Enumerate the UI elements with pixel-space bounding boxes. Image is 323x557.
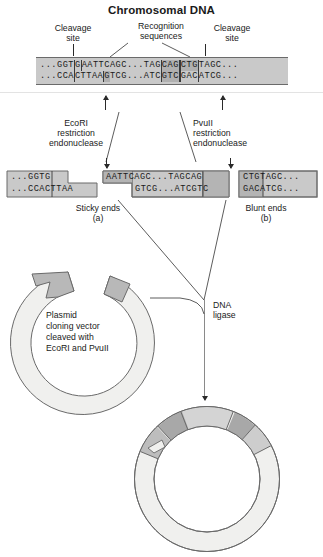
cut-arrow-ecori	[105, 96, 106, 110]
plasmid-caption-line1: Plasmid	[46, 310, 154, 321]
bottom-flank-right: ATCG...	[199, 71, 239, 82]
dna-ligase-line1: DNA	[213, 300, 273, 310]
top-ecori-core: AATTC	[82, 60, 110, 71]
fragment-middle: AATTCAGC...TAGCAG GTCG...ATCGTC	[102, 170, 230, 198]
label-pvuii-enzyme: PvuII restriction endonuclease	[193, 118, 283, 148]
top-spacer: AGC...TAG	[110, 60, 161, 71]
cut-arrow-pvuii	[222, 96, 223, 110]
fragment-middle-bottom-pvuii: GTC	[192, 184, 209, 195]
blunt-ends-tag: (b)	[228, 213, 304, 223]
fragment-right-top-flank: TAGC...	[260, 172, 300, 183]
fragment-right-bottom-flank: ATCG...	[260, 184, 300, 195]
fragment-left: ...GGTG ...CCACTTAA	[6, 170, 98, 198]
label-dna-ligase: DNA ligase	[213, 300, 273, 320]
fragment-middle-top-spacer: AGC...TAG	[134, 172, 185, 183]
pvuii-name: PvuII	[193, 118, 283, 128]
ecori-name: EcoRI	[38, 118, 114, 128]
fragment-middle-top-pvuii: CAG	[185, 172, 202, 183]
pvuii-line2: restriction	[193, 128, 283, 138]
fragment-right-bottom-pvuii: GAC	[243, 184, 260, 195]
top-ecori-pre: G	[74, 60, 82, 71]
top-pvuii-first: CAG	[161, 60, 180, 71]
chromosomal-dna-duplex: ...GGT G AATTC AGC...TAG CAG CTG TAGC...…	[36, 57, 288, 85]
cleavage-site-right-line1: Cleavage	[201, 23, 263, 33]
plasmid-caption-line3: cleaved with	[46, 332, 154, 343]
bottom-spacer: TCG...ATC	[110, 71, 161, 82]
fragment-middle-top-overhang: AATTC	[106, 172, 134, 183]
blunt-ends-text: Blunt ends	[228, 203, 304, 213]
recognition-line2: sequences	[118, 31, 204, 41]
cleavage-site-left-line1: Cleavage	[42, 23, 104, 33]
page-rule	[0, 92, 323, 93]
ligation-stem-arrow	[204, 300, 205, 400]
diagram-canvas: Chromosomal DNA Cleavage site Recognitio…	[0, 0, 323, 557]
pvuii-line3: endonuclease	[193, 138, 283, 148]
cleavage-site-left-line2: site	[42, 33, 104, 43]
fragment-right-top: CTGTAGC...	[243, 172, 300, 183]
fragment-left-bottom: ...CCACTTAA	[11, 184, 73, 195]
cleavage-tick-right	[205, 44, 206, 56]
pvuii-leader-line	[178, 112, 198, 164]
fragment-right-bottom: GACATCG...	[243, 184, 300, 195]
bottom-ecori-core: CTTAA	[74, 71, 104, 82]
fragment-middle-top: AATTCAGC...TAGCAG	[106, 172, 202, 183]
bottom-pvuii-second: GAC	[180, 71, 199, 82]
fragment-middle-bottom: GTCG...ATCGTC	[135, 184, 209, 195]
recognition-line1: Recognition	[118, 21, 204, 31]
dna-ligase-line2: ligase	[213, 310, 273, 320]
fragment-right-top-pvuii: CTG	[243, 172, 260, 183]
fragment-left-top: ...GGTG	[11, 172, 51, 183]
cleavage-tick-left	[73, 44, 74, 56]
fragment-right: CTGTAGC... GACATCG...	[238, 170, 318, 198]
plasmid-caption-line2: cloning vector	[46, 321, 154, 332]
label-blunt-ends: Blunt ends (b)	[228, 203, 304, 223]
top-flank-right: TAGC...	[199, 60, 239, 71]
fragment-arrow-left	[106, 158, 107, 168]
label-plasmid-caption: Plasmid cloning vector cleaved with EcoR…	[46, 310, 154, 354]
label-recognition-sequences: Recognition sequences	[118, 21, 204, 41]
ecori-line2: restriction	[38, 128, 114, 138]
label-cleavage-site-left: Cleavage site	[42, 23, 104, 43]
top-pvuii-second: CTG	[180, 60, 199, 71]
label-cleavage-site-right: Cleavage site	[201, 23, 263, 43]
plasmid-caption-line4: EcoRI and PvuII	[46, 343, 154, 354]
dna-bottom-strand: ...CCA CTTAA G TCG...ATC GTC GAC ATCG...	[36, 71, 288, 82]
bottom-pvuii-first: GTC	[161, 71, 180, 82]
dna-top-strand: ...GGT G AATTC AGC...TAG CAG CTG TAGC...	[36, 60, 288, 71]
recognition-leader-lines	[100, 42, 210, 58]
recombinant-plasmid	[132, 404, 282, 554]
fragment-middle-bottom-spacer: GTCG...ATC	[135, 184, 192, 195]
top-flank-left: ...GGT	[40, 60, 74, 71]
fragment-arrow-right	[230, 158, 231, 168]
ecori-line3: endonuclease	[38, 138, 114, 148]
bottom-flank-left: ...CCA	[40, 71, 74, 82]
recombinant-plasmid-shape	[132, 404, 282, 554]
diagram-title: Chromosomal DNA	[0, 4, 323, 16]
cleavage-site-right-line2: site	[201, 33, 263, 43]
label-ecori-enzyme: EcoRI restriction endonuclease	[38, 118, 114, 148]
ecori-leader-line	[105, 112, 121, 164]
